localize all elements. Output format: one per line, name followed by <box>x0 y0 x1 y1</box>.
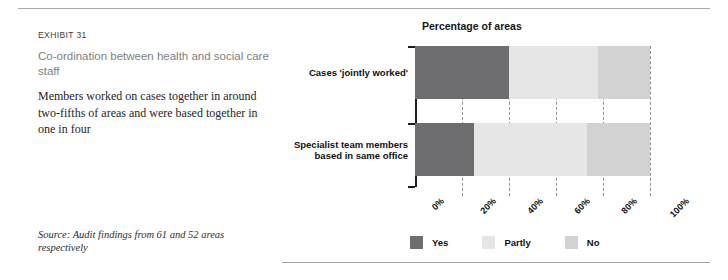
legend-swatch-no <box>565 236 578 249</box>
bar-category-label: Specialist team membersbased in same off… <box>278 138 408 161</box>
legend-swatch-partly <box>482 236 495 249</box>
plot-area: Cases 'jointly worked'Specialist team me… <box>282 40 710 190</box>
chart: Percentage of areas Cases 'jointly worke… <box>282 14 710 258</box>
exhibit-label: EXHIBIT 31 <box>38 30 270 40</box>
bar-segment-yes <box>415 46 509 99</box>
legend-swatch-yes <box>410 236 423 249</box>
axis-tick <box>408 123 415 125</box>
bar-category-label: Cases 'jointly worked' <box>278 67 408 79</box>
x-tick-label: 0% <box>430 196 446 212</box>
chart-title: Percentage of areas <box>422 20 522 32</box>
exhibit-title: Co-ordination between health and social … <box>38 49 270 79</box>
bar-segment-partly <box>474 123 587 176</box>
axis-tick <box>408 46 415 48</box>
exhibit-description: Members worked on cases together in arou… <box>38 88 270 138</box>
bar-segment-partly <box>509 46 598 99</box>
x-axis-tick-labels: 0%20%40%60%80%100% <box>415 196 675 236</box>
legend-label: Yes <box>432 237 448 248</box>
exhibit-text-panel: EXHIBIT 31 Co-ordination between health … <box>38 30 270 138</box>
legend-item[interactable]: No <box>565 236 600 249</box>
legend-item[interactable]: Partly <box>482 236 530 249</box>
x-tick-label: 20% <box>478 196 498 216</box>
x-tick-label: 100% <box>668 196 691 219</box>
legend-item[interactable]: Yes <box>410 236 448 249</box>
x-tick-label: 80% <box>619 196 639 216</box>
legend-label: No <box>587 237 600 248</box>
legend-label: Partly <box>504 237 530 248</box>
exhibit-page: EXHIBIT 31 Co-ordination between health … <box>0 0 728 280</box>
x-tick-label: 60% <box>572 196 592 216</box>
bar-segment-no <box>598 46 650 99</box>
x-tick-label: 40% <box>525 196 545 216</box>
source-note: Source: Audit findings from 61 and 52 ar… <box>38 228 276 254</box>
gridline <box>650 46 651 196</box>
bottom-divider <box>282 262 710 263</box>
bar-segment-yes <box>415 123 474 176</box>
top-divider <box>18 8 710 9</box>
bar-segment-no <box>587 123 650 176</box>
axis-tick <box>408 186 415 188</box>
chart-legend: YesPartlyNo <box>410 236 633 249</box>
